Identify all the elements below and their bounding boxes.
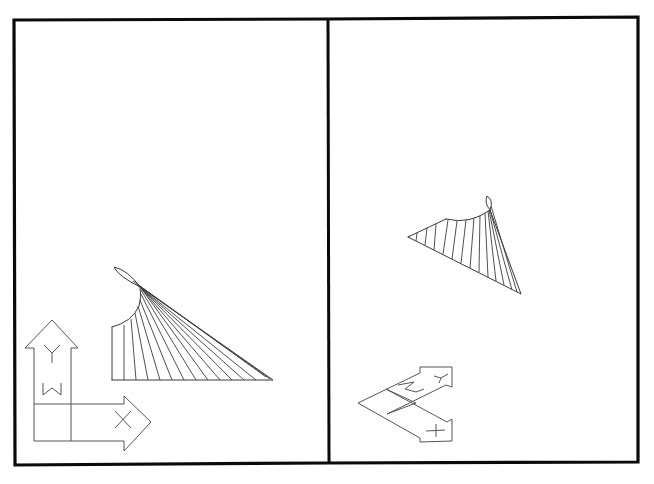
right-w-marker-icon xyxy=(398,382,424,392)
left-x-letter-icon xyxy=(115,411,131,428)
drawing-canvas xyxy=(0,0,654,484)
right-surface-tip xyxy=(486,196,491,210)
left-ruled-surface[interactable] xyxy=(112,267,273,380)
left-x-axis-arrow xyxy=(34,396,151,451)
right-x-axis-arrow xyxy=(358,389,452,442)
right-viewport[interactable] xyxy=(358,196,521,442)
left-w-marker-icon xyxy=(43,383,61,395)
right-ruled-surface[interactable] xyxy=(408,196,521,294)
right-surface-outline xyxy=(408,210,521,294)
right-surface-arc xyxy=(446,210,490,221)
right-x-letter-icon xyxy=(426,424,445,437)
left-y-letter-icon xyxy=(44,345,60,363)
left-surface-tip xyxy=(114,267,140,287)
viewport-divider[interactable] xyxy=(328,19,329,463)
left-ucs-icon xyxy=(25,320,151,451)
right-ucs-icon xyxy=(358,367,452,442)
left-viewport[interactable] xyxy=(25,267,273,451)
left-fan-lines xyxy=(124,281,270,380)
viewport-frame xyxy=(14,17,638,465)
right-y-letter-icon xyxy=(434,374,448,383)
